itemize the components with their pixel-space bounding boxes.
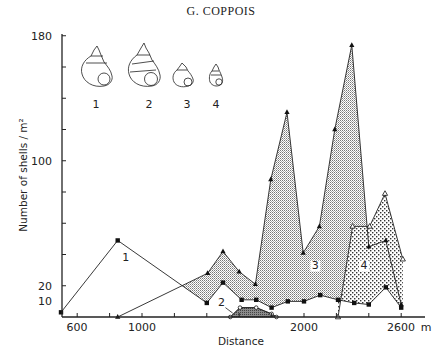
data-point-series-1 [318,293,322,297]
data-point-series-1 [286,299,290,303]
data-point-series-1 [302,299,306,303]
x-tick-label-2000: 2000 [290,321,318,334]
data-point-series-3 [220,248,225,253]
y-tick-label-20: 20 [38,280,52,293]
data-point-series-1 [116,238,120,242]
area-label-3: 3 [312,259,319,272]
legend-label-3: 3 [184,98,191,111]
data-point-series-1 [221,280,225,284]
shell-icon-3 [173,63,193,87]
x-tick-label-2600: 2600 [387,321,415,334]
x-axis-label: Distance [218,335,264,347]
y-tick-label-180: 180 [31,30,52,43]
x-tick-label-600: 600 [67,321,88,334]
legend-label-4: 4 [213,98,220,111]
area-label-4: 4 [360,259,367,272]
shell-icon-1 [81,46,112,86]
shell-icon-4 [209,64,222,86]
data-point-series-1 [367,302,371,306]
shell-legend: 1 2 3 4 [81,43,222,111]
data-point-series-2 [238,306,242,310]
data-point-series-4 [382,191,387,196]
area-2-pointer [225,308,232,313]
data-point-series-1 [239,298,243,302]
area-label-2: 2 [218,296,225,309]
data-point-series-3 [284,109,289,114]
y-axis-label: Number of shells / m² [17,118,29,232]
y-axis: 180 100 20 10 Number of shells / m² [17,30,66,317]
area-label-1: 1 [122,251,129,264]
legend-label-2: 2 [146,98,153,111]
data-point-series-2 [254,306,258,310]
data-point-series-1 [269,305,273,309]
data-point-series-3 [349,42,354,47]
y-tick-label-10: 10 [38,295,52,308]
data-point-series-1 [352,301,356,305]
x-unit-label: m [421,321,432,334]
chart: 1 2 3 4 180 100 20 10 Number of shells /… [0,0,442,351]
x-tick-label-1000: 1000 [128,321,156,334]
legend-label-1: 1 [93,98,100,111]
y-tick-label-100: 100 [31,155,52,168]
data-point-series-1 [254,298,258,302]
shell-icon-2 [128,43,160,86]
data-point-series-1 [205,301,209,305]
data-point-series-1 [336,298,340,302]
data-point-series-1 [384,285,388,289]
